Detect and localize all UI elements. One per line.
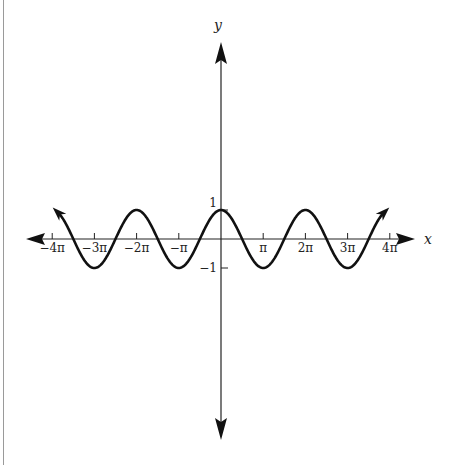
x-tick-label: −4π (39, 241, 65, 255)
x-tick-label: −π (170, 241, 188, 255)
x-axis-label: x (424, 231, 432, 247)
y-tick-label: −1 (199, 261, 217, 275)
y-tick-label: 1 (209, 196, 217, 210)
y-axis-label: y (213, 17, 223, 33)
x-tick-label: 3π (340, 241, 356, 255)
x-tick-label: 2π (298, 241, 314, 255)
x-tick-label: 4π (382, 241, 398, 255)
x-tick-label: −3π (82, 241, 108, 255)
cosine-plot: −4π−3π−2π−ππ2π3π4π1−1 x y (0, 0, 451, 465)
x-tick-label: −2π (124, 241, 150, 255)
tick-labels: −4π−3π−2π−ππ2π3π4π1−1 (39, 196, 397, 275)
x-tick-label: π (259, 241, 267, 255)
